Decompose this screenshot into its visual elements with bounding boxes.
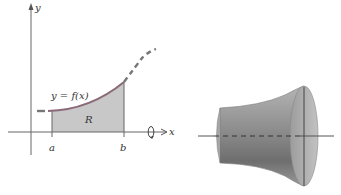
curve-label: y = f(x) xyxy=(50,90,89,101)
rotate-around-x-axis-icon xyxy=(148,127,154,140)
bound-a-label: a xyxy=(49,142,55,153)
figure-canvas: y x y = f(x) R a b xyxy=(0,0,341,195)
y-axis-arrow-icon xyxy=(29,3,34,10)
left-graph: y x y = f(x) R a b xyxy=(8,2,175,155)
solid-of-revolution xyxy=(198,86,334,186)
x-axis-label: x xyxy=(169,126,175,137)
bound-b-label: b xyxy=(120,142,126,153)
region-label: R xyxy=(84,114,93,125)
y-axis-label: y xyxy=(34,2,41,13)
curve-dashed-right xyxy=(124,49,156,82)
